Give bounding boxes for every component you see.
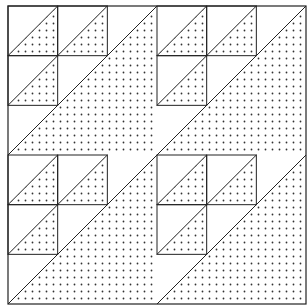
block-bottom-left [8, 155, 157, 304]
block-top-right [157, 6, 306, 155]
block-bottom-right [157, 155, 306, 304]
block-top-left [8, 6, 157, 155]
quilt-pattern [0, 0, 308, 305]
